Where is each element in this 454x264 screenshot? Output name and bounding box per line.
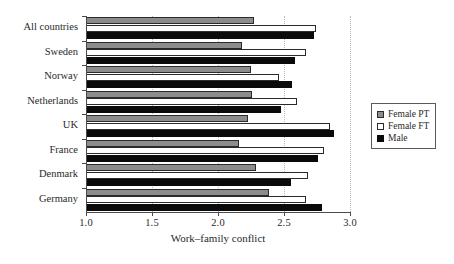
bar-ft <box>86 74 279 81</box>
y-axis-line <box>86 16 87 212</box>
y-tick <box>82 65 86 66</box>
x-tick-label: 2.5 <box>264 217 304 228</box>
x-tick-label: 1.5 <box>132 217 172 228</box>
y-tick-label-all-countries: All countries <box>0 21 78 32</box>
legend-item-female-ft: Female FT <box>377 120 429 132</box>
bar-male <box>86 32 314 39</box>
bar-male <box>86 155 318 162</box>
bar-pt <box>86 91 252 98</box>
x-tick <box>350 212 351 216</box>
chart-legend: Female PT Female FT Male <box>371 103 436 149</box>
y-tick-label-france: France <box>0 144 78 155</box>
y-tick-label-denmark: Denmark <box>0 168 78 179</box>
legend-swatch-female-ft-icon <box>377 123 384 130</box>
y-tick <box>82 188 86 189</box>
y-tick-label-sweden: Sweden <box>0 46 78 57</box>
legend-swatch-male-icon <box>377 135 384 142</box>
x-tick-label: 1.0 <box>66 217 106 228</box>
x-tick <box>86 212 87 216</box>
y-tick <box>82 163 86 164</box>
bar-ft <box>86 123 330 130</box>
y-tick-label-netherlands: Netherlands <box>0 95 78 106</box>
legend-label-male: Male <box>388 133 408 143</box>
bar-pt <box>86 42 242 49</box>
legend-label-female-ft: Female FT <box>388 121 429 131</box>
y-tick <box>82 90 86 91</box>
bar-pt <box>86 66 251 73</box>
bar-pt <box>86 164 256 171</box>
y-tick-label-germany: Germany <box>0 193 78 204</box>
y-tick <box>82 114 86 115</box>
gridline <box>350 16 352 212</box>
legend-item-female-pt: Female PT <box>377 108 429 120</box>
bar-male <box>86 81 292 88</box>
x-axis-title: Work–family conflict <box>86 232 350 244</box>
plot-area <box>86 16 350 212</box>
bar-ft <box>86 98 297 105</box>
y-tick <box>82 16 86 17</box>
bar-ft <box>86 196 306 203</box>
x-tick-label: 2.0 <box>198 217 238 228</box>
bar-pt <box>86 140 239 147</box>
bar-ft <box>86 172 308 179</box>
bar-pt <box>86 17 254 24</box>
bar-male <box>86 179 291 186</box>
x-tick <box>284 212 285 216</box>
legend-swatch-female-pt-icon <box>377 111 384 118</box>
bar-male <box>86 204 322 211</box>
x-tick-label: 3.0 <box>330 217 370 228</box>
bar-male <box>86 130 334 137</box>
y-tick <box>82 41 86 42</box>
bar-pt <box>86 189 269 196</box>
x-tick <box>152 212 153 216</box>
chart-figure: 1.01.52.02.53.0 All countriesSwedenNorwa… <box>0 0 454 264</box>
x-tick <box>218 212 219 216</box>
bar-ft <box>86 49 306 56</box>
y-tick-label-uk: UK <box>0 119 78 130</box>
y-tick-label-norway: Norway <box>0 70 78 81</box>
bar-pt <box>86 115 248 122</box>
bar-ft <box>86 147 324 154</box>
legend-item-male: Male <box>377 132 429 144</box>
y-tick <box>82 139 86 140</box>
legend-label-female-pt: Female PT <box>388 109 429 119</box>
bar-ft <box>86 25 316 32</box>
bar-male <box>86 106 281 113</box>
bar-male <box>86 57 295 64</box>
